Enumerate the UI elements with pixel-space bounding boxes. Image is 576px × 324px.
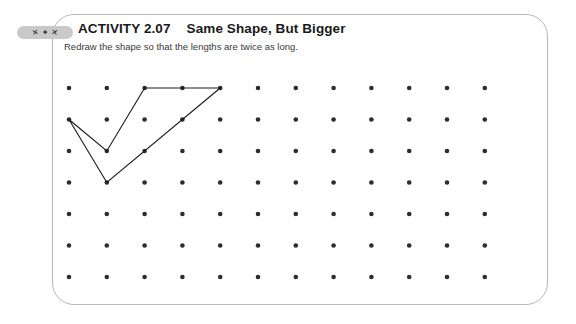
- grid-dot[interactable]: [407, 86, 412, 91]
- grid-dot[interactable]: [445, 243, 450, 248]
- grid-dot[interactable]: [369, 149, 374, 154]
- grid-dot[interactable]: [407, 149, 412, 154]
- grid-dot[interactable]: [445, 180, 450, 185]
- grid-dot[interactable]: [331, 275, 336, 280]
- grid-dot[interactable]: [483, 243, 488, 248]
- grid-dot[interactable]: [105, 243, 110, 248]
- grid-dot[interactable]: [483, 275, 488, 280]
- cross-mirrored-icon: ✕: [51, 28, 59, 37]
- grid-dot[interactable]: [407, 275, 412, 280]
- grid-dot[interactable]: [294, 180, 299, 185]
- grid-dot[interactable]: [369, 212, 374, 217]
- dot-grid-points: [67, 86, 487, 280]
- grid-dot[interactable]: [331, 180, 336, 185]
- grid-dot[interactable]: [142, 180, 147, 185]
- grid-dot[interactable]: [445, 275, 450, 280]
- grid-dot[interactable]: [105, 212, 110, 217]
- page-title: ACTIVITY 2.07Same Shape, But Bigger: [78, 21, 346, 36]
- grid-dot[interactable]: [445, 212, 450, 217]
- grid-dot[interactable]: [256, 212, 261, 217]
- grid-dot[interactable]: [218, 180, 223, 185]
- grid-dot[interactable]: [483, 117, 488, 122]
- grid-dot[interactable]: [483, 86, 488, 91]
- grid-dot[interactable]: [180, 243, 185, 248]
- grid-dot[interactable]: [407, 117, 412, 122]
- grid-dot[interactable]: [294, 86, 299, 91]
- grid-dot[interactable]: [483, 180, 488, 185]
- sparkle-icon: ✦: [42, 29, 49, 37]
- grid-dot[interactable]: [218, 212, 223, 217]
- grid-dot[interactable]: [256, 180, 261, 185]
- grid-dot[interactable]: [369, 243, 374, 248]
- grid-dot[interactable]: [331, 149, 336, 154]
- grid-dot[interactable]: [105, 86, 110, 91]
- grid-dot[interactable]: [483, 212, 488, 217]
- grid-dot[interactable]: [142, 275, 147, 280]
- grid-dot[interactable]: [256, 243, 261, 248]
- grid-dot[interactable]: [218, 117, 223, 122]
- grid-dot[interactable]: [331, 243, 336, 248]
- grid-dot[interactable]: [180, 212, 185, 217]
- dot-grid-workspace[interactable]: [52, 68, 548, 298]
- activity-instruction-text: Redraw the shape so that the lengths are…: [64, 41, 298, 52]
- grid-dot[interactable]: [369, 275, 374, 280]
- grid-dot[interactable]: [407, 212, 412, 217]
- grid-dot[interactable]: [142, 243, 147, 248]
- grid-dot[interactable]: [218, 243, 223, 248]
- grid-dot[interactable]: [331, 212, 336, 217]
- grid-dot[interactable]: [142, 117, 147, 122]
- activity-icon-badge: ✕ ✦ ✕: [17, 26, 73, 39]
- grid-dot[interactable]: [445, 149, 450, 154]
- grid-dot[interactable]: [67, 149, 72, 154]
- grid-dot[interactable]: [105, 275, 110, 280]
- grid-dot[interactable]: [407, 243, 412, 248]
- grid-dot[interactable]: [407, 180, 412, 185]
- grid-dot[interactable]: [67, 180, 72, 185]
- grid-dot[interactable]: [445, 86, 450, 91]
- grid-dot[interactable]: [294, 149, 299, 154]
- grid-dot[interactable]: [369, 180, 374, 185]
- grid-dot[interactable]: [369, 86, 374, 91]
- grid-dot[interactable]: [369, 117, 374, 122]
- activity-number-label: ACTIVITY 2.07: [78, 21, 171, 36]
- grid-dot[interactable]: [218, 149, 223, 154]
- grid-dot[interactable]: [67, 86, 72, 91]
- grid-dot[interactable]: [483, 149, 488, 154]
- grid-dot[interactable]: [445, 117, 450, 122]
- grid-dot[interactable]: [218, 275, 223, 280]
- grid-dot[interactable]: [105, 117, 110, 122]
- grid-dot[interactable]: [256, 86, 261, 91]
- grid-dot[interactable]: [331, 117, 336, 122]
- grid-dot[interactable]: [294, 117, 299, 122]
- grid-dot[interactable]: [180, 180, 185, 185]
- dot-grid-canvas[interactable]: [52, 68, 548, 298]
- activity-name-label: Same Shape, But Bigger: [187, 21, 346, 36]
- grid-dot[interactable]: [294, 212, 299, 217]
- grid-dot[interactable]: [294, 275, 299, 280]
- grid-dot[interactable]: [256, 117, 261, 122]
- given-shape-outline: [69, 88, 220, 183]
- grid-dot[interactable]: [67, 212, 72, 217]
- grid-dot[interactable]: [180, 149, 185, 154]
- grid-dot[interactable]: [294, 243, 299, 248]
- grid-dot[interactable]: [256, 149, 261, 154]
- grid-dot[interactable]: [331, 86, 336, 91]
- grid-dot[interactable]: [67, 243, 72, 248]
- grid-dot[interactable]: [142, 212, 147, 217]
- grid-dot[interactable]: [256, 275, 261, 280]
- cross-icon: ✕: [31, 28, 39, 37]
- grid-dot[interactable]: [180, 275, 185, 280]
- grid-dot[interactable]: [67, 275, 72, 280]
